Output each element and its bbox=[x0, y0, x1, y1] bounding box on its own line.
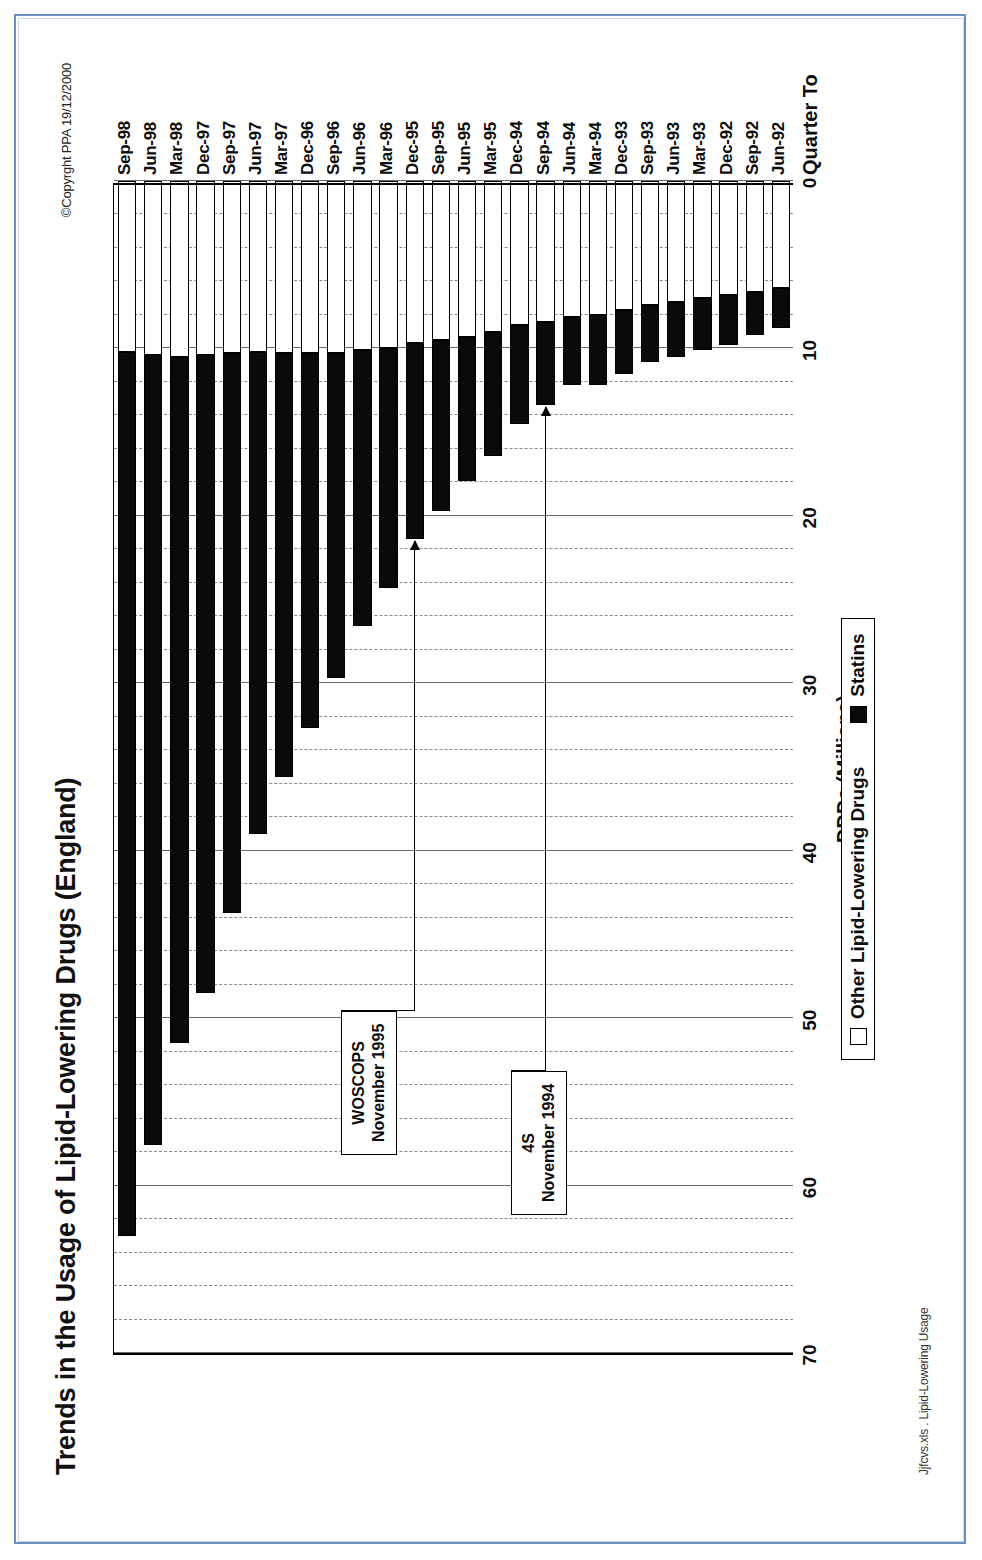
gridline-minor bbox=[114, 548, 793, 549]
bar-segment-statins[interactable] bbox=[275, 353, 293, 777]
bar-segment-other[interactable] bbox=[484, 181, 502, 332]
bar-segment-statins[interactable] bbox=[432, 340, 450, 511]
bar-row[interactable] bbox=[589, 183, 607, 1353]
bar-segment-other[interactable] bbox=[589, 181, 607, 315]
bar-segment-other[interactable] bbox=[406, 181, 424, 343]
bar-segment-other[interactable] bbox=[563, 181, 581, 317]
bar-segment-statins[interactable] bbox=[563, 317, 581, 386]
bar-row[interactable] bbox=[301, 183, 319, 1353]
bar-row[interactable] bbox=[275, 183, 293, 1353]
legend-item-statins[interactable]: Statins bbox=[847, 633, 869, 722]
bar-segment-statins[interactable] bbox=[144, 355, 162, 1145]
bar-segment-statins[interactable] bbox=[641, 305, 659, 362]
bar-segment-other[interactable] bbox=[772, 181, 790, 288]
bar-segment-statins[interactable] bbox=[327, 353, 345, 678]
bar-segment-statins[interactable] bbox=[484, 332, 502, 456]
category-tick-label: Sep-95 bbox=[429, 121, 449, 175]
bar-segment-other[interactable] bbox=[223, 181, 241, 353]
category-tick-label: Mar-95 bbox=[481, 122, 501, 175]
gridline-major bbox=[114, 682, 793, 683]
bar-segment-statins[interactable] bbox=[301, 353, 319, 728]
bar-row[interactable] bbox=[641, 183, 659, 1353]
bar-row[interactable] bbox=[118, 183, 136, 1353]
bar-segment-other[interactable] bbox=[667, 181, 685, 302]
bar-row[interactable] bbox=[719, 183, 737, 1353]
bar-segment-other[interactable] bbox=[615, 181, 633, 310]
bar-segment-statins[interactable] bbox=[223, 353, 241, 912]
bar-segment-statins[interactable] bbox=[772, 288, 790, 328]
category-tick-label: Jun-98 bbox=[141, 122, 161, 175]
bar-segment-statins[interactable] bbox=[118, 352, 136, 1236]
bar-row[interactable] bbox=[223, 183, 241, 1353]
bar-row[interactable] bbox=[379, 183, 397, 1353]
gridline-major bbox=[114, 347, 793, 348]
bar-segment-other[interactable] bbox=[379, 181, 397, 348]
bar-row[interactable] bbox=[458, 183, 476, 1353]
bar-row[interactable] bbox=[196, 183, 214, 1353]
bar-segment-other[interactable] bbox=[196, 181, 214, 355]
value-tick-label: 40 bbox=[799, 842, 821, 863]
bar-segment-other[interactable] bbox=[536, 181, 554, 322]
bar-segment-other[interactable] bbox=[719, 181, 737, 295]
bar-row[interactable] bbox=[249, 183, 267, 1353]
gridline-minor bbox=[114, 1084, 793, 1085]
bar-segment-statins[interactable] bbox=[170, 357, 188, 1043]
annotation-connector-4s bbox=[511, 1070, 545, 1071]
legend-label-other: Other Lipid-Lowering Drugs bbox=[847, 767, 869, 1019]
bar-segment-other[interactable] bbox=[301, 181, 319, 353]
bar-row[interactable] bbox=[353, 183, 371, 1353]
bar-row[interactable] bbox=[667, 183, 685, 1353]
value-tick-label: 60 bbox=[799, 1177, 821, 1198]
bar-row[interactable] bbox=[484, 183, 502, 1353]
bar-segment-other[interactable] bbox=[458, 181, 476, 337]
bar-segment-statins[interactable] bbox=[458, 337, 476, 481]
bar-segment-other[interactable] bbox=[432, 181, 450, 340]
bar-row[interactable] bbox=[432, 183, 450, 1353]
bar-segment-statins[interactable] bbox=[196, 355, 214, 993]
bar-row[interactable] bbox=[693, 183, 711, 1353]
bar-segment-statins[interactable] bbox=[667, 302, 685, 357]
bar-segment-other[interactable] bbox=[746, 181, 764, 292]
bar-row[interactable] bbox=[772, 183, 790, 1353]
gridline-minor bbox=[114, 749, 793, 750]
bar-segment-other[interactable] bbox=[693, 181, 711, 298]
bar-segment-statins[interactable] bbox=[536, 322, 554, 406]
bar-segment-statins[interactable] bbox=[353, 350, 371, 626]
bar-row[interactable] bbox=[746, 183, 764, 1353]
gridline-minor bbox=[114, 615, 793, 616]
bar-segment-statins[interactable] bbox=[589, 315, 607, 385]
bar-segment-statins[interactable] bbox=[693, 298, 711, 350]
bar-row[interactable] bbox=[144, 183, 162, 1353]
bar-segment-statins[interactable] bbox=[746, 292, 764, 336]
bar-segment-other[interactable] bbox=[510, 181, 528, 325]
bar-segment-statins[interactable] bbox=[510, 325, 528, 424]
bar-segment-statins[interactable] bbox=[615, 310, 633, 374]
category-tick-label: Dec-96 bbox=[298, 121, 318, 175]
bar-segment-statins[interactable] bbox=[719, 295, 737, 345]
bar-segment-other[interactable] bbox=[118, 181, 136, 352]
category-tick-label: Sep-97 bbox=[220, 121, 240, 175]
bar-row[interactable] bbox=[615, 183, 633, 1353]
annotation-arrow-4s bbox=[545, 407, 546, 1071]
bar-segment-other[interactable] bbox=[353, 181, 371, 350]
gridline-major bbox=[114, 850, 793, 851]
bar-row[interactable] bbox=[170, 183, 188, 1353]
gridline-minor bbox=[114, 381, 793, 382]
gridline-minor bbox=[114, 280, 793, 281]
bar-segment-other[interactable] bbox=[170, 181, 188, 357]
bar-segment-other[interactable] bbox=[327, 181, 345, 353]
bar-segment-statins[interactable] bbox=[249, 352, 267, 834]
bar-segment-other[interactable] bbox=[144, 181, 162, 355]
bar-segment-other[interactable] bbox=[641, 181, 659, 305]
bar-segment-statins[interactable] bbox=[406, 343, 424, 539]
gridline-minor bbox=[114, 883, 793, 884]
bar-segment-other[interactable] bbox=[249, 181, 267, 352]
bar-segment-other[interactable] bbox=[275, 181, 293, 353]
annotation-line-1: 4S bbox=[519, 1084, 539, 1202]
legend-item-other[interactable]: Other Lipid-Lowering Drugs bbox=[847, 767, 869, 1045]
category-tick-label: Sep-96 bbox=[324, 121, 344, 175]
value-tick-label: 10 bbox=[799, 340, 821, 361]
bar-row[interactable] bbox=[327, 183, 345, 1353]
bar-segment-statins[interactable] bbox=[379, 348, 397, 587]
gridline-minor bbox=[114, 314, 793, 315]
